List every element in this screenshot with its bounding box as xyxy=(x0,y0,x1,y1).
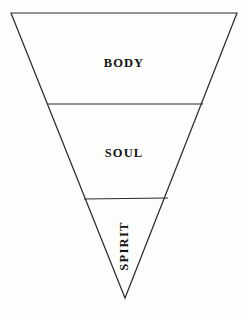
inverted-triangle-graphic xyxy=(0,0,248,320)
tier-label-body: BODY xyxy=(0,57,248,70)
soul-spirit-divider xyxy=(84,198,168,199)
diagram-canvas: BODY SOUL SPIRIT xyxy=(0,0,248,320)
tier-label-soul: SOUL xyxy=(0,147,248,160)
tier-label-spirit: SPIRIT xyxy=(119,221,132,270)
